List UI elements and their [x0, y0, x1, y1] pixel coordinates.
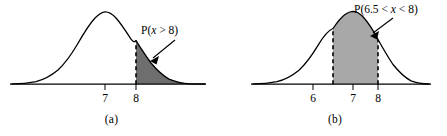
probability-label-a: P(x > 8) — [141, 24, 178, 37]
prob-prefix: P( — [141, 24, 151, 37]
shaded-area-right-tail — [136, 41, 200, 84]
shaded-area-between — [333, 11, 378, 84]
panel-caption-b: (b) — [223, 113, 447, 125]
tick-label-6: 6 — [310, 92, 316, 104]
annotation-arrow-line — [373, 18, 393, 33]
prob-prefix: P(6.5 < — [354, 3, 391, 16]
probability-label-b: P(6.5 < x < 8) — [354, 3, 418, 16]
tick-label-8: 8 — [133, 92, 139, 104]
annotation-arrow-line — [153, 40, 175, 58]
figure-root: 7 8 P(x > 8) (a) — [0, 0, 447, 136]
panel-b: 6 7 8 P(6.5 < x < 8) (b) — [223, 0, 447, 136]
prob-relation: > 8) — [156, 24, 178, 37]
normal-distribution-curve — [12, 12, 205, 84]
tick-label-8: 8 — [375, 92, 381, 104]
panel-caption-a: (a) — [0, 113, 223, 125]
tick-label-7: 7 — [350, 92, 356, 104]
tick-label-7: 7 — [102, 92, 108, 104]
prob-relation: < 8) — [396, 3, 418, 16]
panel-a: 7 8 P(x > 8) (a) — [0, 0, 223, 136]
